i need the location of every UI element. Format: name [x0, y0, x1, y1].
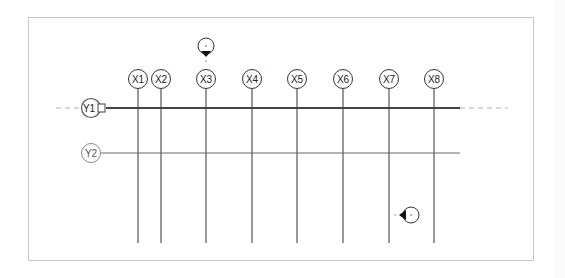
grid-x5[interactable]: X5 — [288, 70, 307, 244]
elevation-center-dot — [410, 214, 412, 216]
grid-label: X8 — [428, 74, 441, 85]
grid-y1[interactable]: Y1 — [56, 99, 508, 118]
grid-label: X7 — [383, 74, 396, 85]
grid-x2[interactable]: X2 — [152, 70, 171, 244]
grid-label: X4 — [246, 74, 259, 85]
elevation-marker-east[interactable] — [394, 207, 419, 223]
grid-label: X2 — [155, 74, 168, 85]
grid-label: Y2 — [85, 148, 98, 159]
bubble-toggle-checkbox[interactable] — [98, 104, 105, 112]
plan-view-canvas[interactable]: X1X2X3X4X5X6X7X8 Y1Y2 — [0, 0, 565, 278]
elevation-marker-north[interactable] — [198, 38, 214, 62]
grid-x3[interactable]: X3 — [197, 70, 216, 244]
grid-x6[interactable]: X6 — [334, 70, 353, 244]
grid-label: X3 — [200, 74, 213, 85]
elevation-markers — [198, 38, 419, 223]
elevation-center-dot — [205, 45, 207, 47]
grid-label: X6 — [337, 74, 350, 85]
grid-x4[interactable]: X4 — [243, 70, 262, 244]
grid-label: X5 — [291, 74, 304, 85]
elevation-tip-dot — [394, 214, 395, 215]
grid-x1[interactable]: X1 — [129, 70, 148, 244]
grid-x7[interactable]: X7 — [380, 70, 399, 244]
grid-label: Y1 — [83, 103, 96, 114]
elevation-arrow-icon[interactable] — [399, 210, 406, 220]
elevation-arrow-icon[interactable] — [201, 51, 211, 57]
y-grid-lines: Y1Y2 — [56, 99, 508, 163]
x-grid-lines: X1X2X3X4X5X6X7X8 — [129, 70, 444, 244]
grid-label: X1 — [132, 74, 145, 85]
grid-x8[interactable]: X8 — [425, 70, 444, 244]
elevation-tip-dot — [205, 60, 206, 61]
